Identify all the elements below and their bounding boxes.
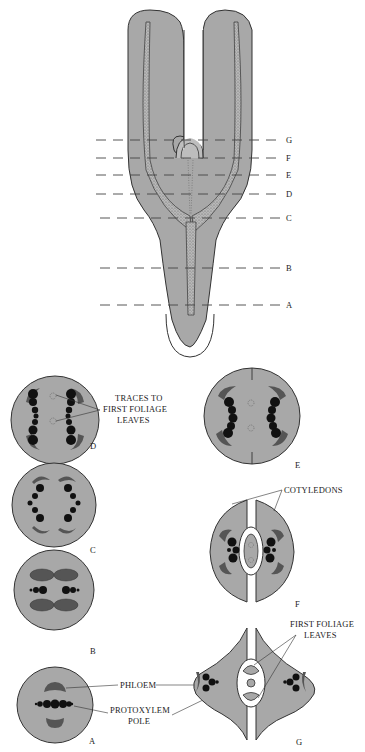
section-label-c: C [90,545,96,555]
svg-text:LEAVES: LEAVES [304,630,337,640]
protoxylem-label: PROTOXYLEM POLE [74,699,205,726]
svg-text:FIRST FOLIAGE: FIRST FOLIAGE [290,619,354,629]
level-label-g: G [286,135,292,145]
cross-section-d: D [11,376,99,464]
cross-section-f: F [210,500,300,609]
vascular-strand-root [186,222,196,315]
level-label-f: F [286,153,291,163]
svg-text:FIRST FOLIAGE: FIRST FOLIAGE [103,404,167,414]
level-label-e: E [286,170,291,180]
svg-text:PHLOEM: PHLOEM [120,680,156,690]
level-label-d: D [286,189,292,199]
cross-section-a: A [17,667,96,746]
cotyledons-label: COTYLEDONS [232,485,343,511]
level-label-c: C [286,213,292,223]
svg-text:POLE: POLE [128,716,150,726]
level-label-b: B [286,263,292,273]
cross-section-e: E [204,368,300,470]
section-label-d: D [90,441,96,451]
level-label-a: A [286,300,293,310]
cross-section-b: B [14,550,96,656]
svg-text:COTYLEDONS: COTYLEDONS [284,485,343,495]
section-label-a: A [89,736,96,746]
svg-text:TRACES TO: TRACES TO [115,393,163,403]
cross-section-c: C [12,463,96,555]
cross-section-g: G [194,628,315,747]
section-label-g: G [296,737,302,747]
section-label-f: F [295,599,300,609]
svg-text:PROTOXYLEM: PROTOXYLEM [110,705,170,715]
level-labels: G F E D C B A [286,135,293,310]
section-label-b: B [90,646,96,656]
seedling-diagram: G F E D C B A D TRACES TO FIRST FOLIAGE … [0,0,365,752]
section-label-e: E [295,460,300,470]
svg-text:LEAVES: LEAVES [117,415,150,425]
